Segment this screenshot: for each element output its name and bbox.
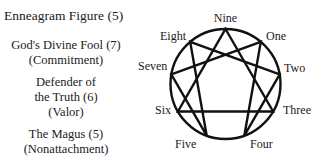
label-eight: Eight (160, 29, 187, 43)
enneagram-circle (171, 29, 281, 139)
enneagram-diagram: Nine One Two Three Four Five Six Seven E… (0, 0, 325, 165)
label-five: Five (175, 137, 196, 151)
hexad-1-4-2-8-5-7 (171, 42, 279, 136)
label-seven: Seven (138, 59, 167, 73)
label-two: Two (284, 61, 305, 75)
label-four: Four (250, 137, 273, 151)
label-six: Six (155, 103, 171, 117)
label-nine: Nine (214, 11, 237, 25)
label-one: One (266, 29, 286, 43)
label-three: Three (283, 103, 311, 117)
